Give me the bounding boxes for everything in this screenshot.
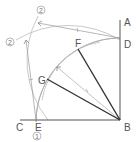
step-2-top-text: 2 bbox=[39, 7, 43, 14]
arrow-E-up bbox=[26, 40, 36, 120]
label-A: A bbox=[124, 17, 131, 28]
label-C: C bbox=[16, 122, 23, 133]
arrow-B-diag bbox=[57, 67, 120, 120]
arc-top-2 bbox=[27, 16, 48, 120]
tick-top bbox=[77, 28, 78, 32]
label-E: E bbox=[35, 122, 42, 133]
tick-left bbox=[29, 79, 33, 80]
arrow-D-to-top bbox=[38, 23, 120, 38]
label-G: G bbox=[38, 75, 46, 86]
label-F: F bbox=[75, 38, 81, 49]
line-BF bbox=[78, 49, 120, 120]
label-B: B bbox=[124, 122, 131, 133]
label-D: D bbox=[124, 39, 131, 50]
step-1-text: 1 bbox=[35, 133, 39, 140]
line-BG bbox=[47, 79, 120, 120]
step-2-left-text: 2 bbox=[8, 39, 12, 46]
geometry-diagram: A D F G C E B 1 2 2 bbox=[0, 0, 136, 142]
arc-left-2 bbox=[16, 25, 120, 40]
